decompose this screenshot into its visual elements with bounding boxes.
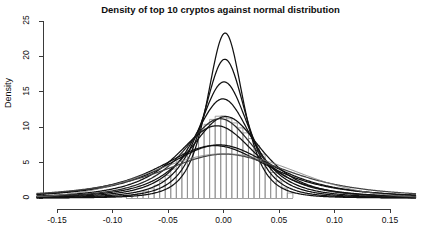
y-tick-label-4: 20 <box>21 44 31 66</box>
y-tick-label-2: 10 <box>21 115 31 137</box>
density-plot: Density of top 10 cryptos against normal… <box>0 0 441 241</box>
histogram-bar <box>215 116 221 198</box>
x-tick-label-4: 0.05 <box>259 215 299 225</box>
x-tick-label-2: -0.05 <box>148 215 188 225</box>
histogram-bar <box>204 124 210 198</box>
x-tick-label-0: -0.15 <box>37 215 77 225</box>
x-tick-label-1: -0.10 <box>93 215 133 225</box>
x-tick-label-5: 0.10 <box>315 215 355 225</box>
axes-layer <box>39 21 390 213</box>
y-tick-label-3: 15 <box>21 80 31 102</box>
histogram-bar <box>210 119 216 198</box>
plot-canvas <box>0 0 441 241</box>
y-tick-label-5: 25 <box>21 9 31 31</box>
y-tick-label-0: 0 <box>21 186 31 208</box>
y-tick-label-1: 5 <box>21 151 31 173</box>
histogram-bar <box>199 131 205 198</box>
x-tick-label-6: 0.15 <box>370 215 410 225</box>
x-tick-label-3: 0.00 <box>204 215 244 225</box>
histogram-bar <box>287 193 293 198</box>
